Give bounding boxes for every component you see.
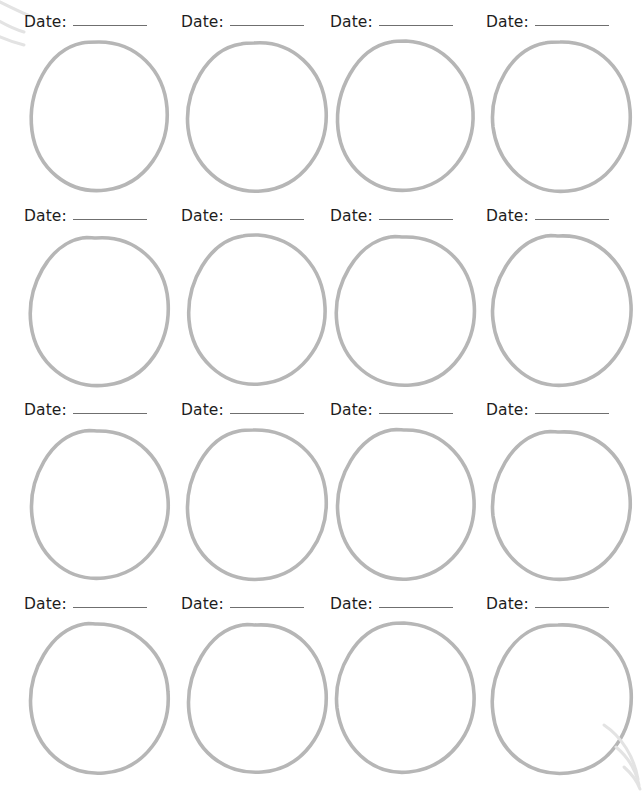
date-circle-cell: Date:: [24, 402, 174, 592]
date-entry-row: Date:: [181, 596, 304, 613]
date-entry-row: Date:: [486, 402, 609, 419]
date-write-in-field[interactable]: [535, 25, 609, 26]
date-entry-row: Date:: [330, 14, 453, 31]
date-label: Date:: [24, 14, 67, 31]
hand-drawn-circle[interactable]: [181, 230, 331, 392]
date-write-in-field[interactable]: [379, 607, 453, 608]
date-entry-row: Date:: [330, 402, 453, 419]
date-circle-cell: Date:: [486, 14, 636, 204]
date-write-in-field[interactable]: [535, 413, 609, 414]
hand-drawn-circle[interactable]: [330, 36, 480, 198]
date-entry-row: Date:: [330, 596, 453, 613]
date-label: Date:: [181, 208, 224, 225]
date-write-in-field[interactable]: [73, 607, 147, 608]
hand-drawn-circle[interactable]: [486, 36, 636, 198]
hand-drawn-circle[interactable]: [330, 230, 480, 392]
date-entry-row: Date:: [486, 208, 609, 225]
date-write-in-field[interactable]: [230, 25, 304, 26]
date-circle-cell: Date:: [24, 208, 174, 398]
date-label: Date:: [486, 596, 529, 613]
hand-drawn-circle[interactable]: [24, 618, 174, 780]
hand-drawn-circle[interactable]: [24, 230, 174, 392]
date-label: Date:: [486, 208, 529, 225]
date-circle-cell: Date:: [181, 402, 331, 592]
hand-drawn-circle[interactable]: [24, 36, 174, 198]
date-write-in-field[interactable]: [535, 607, 609, 608]
hand-drawn-circle[interactable]: [330, 618, 480, 780]
date-label: Date:: [330, 596, 373, 613]
date-circle-cell: Date:: [24, 14, 174, 204]
date-label: Date:: [330, 208, 373, 225]
date-write-in-field[interactable]: [379, 413, 453, 414]
date-circle-cell: Date:: [330, 402, 480, 592]
date-label: Date:: [330, 402, 373, 419]
date-label: Date:: [181, 596, 224, 613]
date-label: Date:: [486, 14, 529, 31]
date-circle-cell: Date:: [486, 596, 636, 786]
date-label: Date:: [330, 14, 373, 31]
date-circle-cell: Date:: [181, 14, 331, 204]
date-entry-row: Date:: [486, 596, 609, 613]
date-circle-cell: Date:: [181, 208, 331, 398]
date-entry-row: Date:: [24, 402, 147, 419]
date-entry-row: Date:: [24, 208, 147, 225]
date-entry-row: Date:: [486, 14, 609, 31]
date-circle-cell: Date:: [330, 596, 480, 786]
hand-drawn-circle[interactable]: [486, 424, 636, 586]
date-circle-cell: Date:: [181, 596, 331, 786]
date-label: Date:: [24, 208, 67, 225]
date-label: Date:: [181, 14, 224, 31]
hand-drawn-circle[interactable]: [330, 424, 480, 586]
date-label: Date:: [24, 596, 67, 613]
hand-drawn-circle[interactable]: [181, 36, 331, 198]
date-circle-cell: Date:: [330, 208, 480, 398]
date-write-in-field[interactable]: [73, 25, 147, 26]
hand-drawn-circle[interactable]: [486, 618, 636, 780]
date-circle-cell: Date:: [486, 402, 636, 592]
hand-drawn-circle[interactable]: [24, 424, 174, 586]
date-label: Date:: [181, 402, 224, 419]
date-entry-row: Date:: [181, 14, 304, 31]
date-write-in-field[interactable]: [73, 413, 147, 414]
hand-drawn-circle[interactable]: [486, 230, 636, 392]
hand-drawn-circle[interactable]: [181, 424, 331, 586]
date-circle-cell: Date:: [486, 208, 636, 398]
date-write-in-field[interactable]: [73, 219, 147, 220]
date-entry-row: Date:: [24, 14, 147, 31]
date-write-in-field[interactable]: [379, 219, 453, 220]
date-circle-cell: Date:: [330, 14, 480, 204]
date-entry-row: Date:: [24, 596, 147, 613]
date-entry-row: Date:: [181, 208, 304, 225]
date-label: Date:: [486, 402, 529, 419]
date-entry-row: Date:: [181, 402, 304, 419]
date-label: Date:: [24, 402, 67, 419]
date-circle-cell: Date:: [24, 596, 174, 786]
date-write-in-field[interactable]: [230, 219, 304, 220]
date-write-in-field[interactable]: [230, 413, 304, 414]
date-write-in-field[interactable]: [535, 219, 609, 220]
date-write-in-field[interactable]: [230, 607, 304, 608]
hand-drawn-circle[interactable]: [181, 618, 331, 780]
date-write-in-field[interactable]: [379, 25, 453, 26]
date-entry-row: Date:: [330, 208, 453, 225]
